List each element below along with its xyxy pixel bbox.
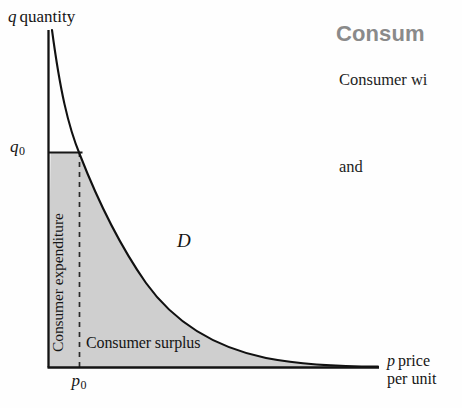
body-paragraph-line-2: and: [339, 157, 363, 177]
body-text-column: Consum Consumer wi and: [336, 0, 462, 408]
p0-subscript: 0: [80, 378, 87, 392]
y-axis-label: qquantity: [8, 8, 75, 25]
y-axis-text: quantity: [20, 7, 76, 26]
demand-curve-label: D: [177, 231, 191, 250]
y-axis-symbol: q: [8, 7, 20, 26]
q0-tick-label: q0: [10, 138, 25, 157]
consumer-expenditure-label: Consumer expenditure: [50, 213, 66, 352]
p0-symbol: p: [72, 371, 81, 390]
q0-symbol: q: [10, 137, 19, 156]
section-heading: Consum: [336, 21, 425, 47]
figure-page: qquantity q0 p0 D Consumer expenditure C…: [0, 0, 462, 408]
p0-tick-label: p0: [72, 372, 87, 391]
consumer-surplus-label: Consumer surplus: [86, 335, 200, 351]
q0-subscript: 0: [19, 144, 26, 158]
body-paragraph-line-1: Consumer wi: [339, 70, 427, 90]
